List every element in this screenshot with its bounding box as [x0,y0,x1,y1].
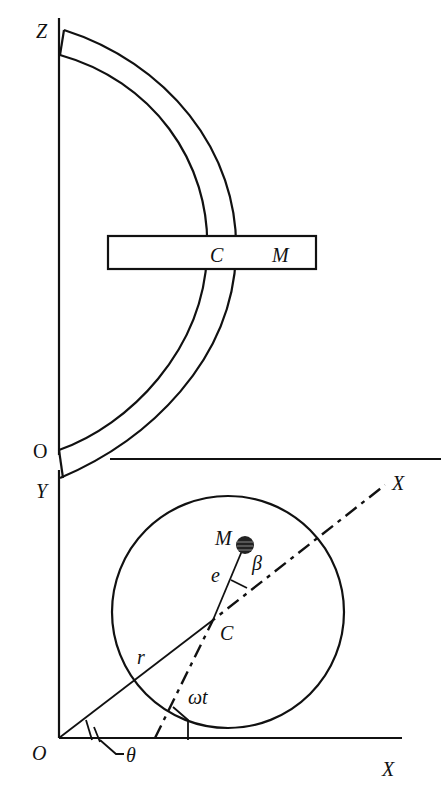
theta-label: θ [126,744,136,766]
mass-label: M [214,527,233,549]
radius-label: r [137,646,145,668]
disk-center-label: C [210,244,224,266]
radius-line [59,620,213,738]
beta-perpendicular [231,580,247,588]
omega-t-arc [173,707,188,740]
center-label: C [220,622,234,644]
shaft-top-cap [60,30,64,55]
y-axis-label: Y [36,480,49,502]
x-axis-label: X [381,758,395,780]
theta-tick-2 [94,727,100,742]
top-view: Z C M O [33,18,441,478]
top-origin-label: O [33,440,47,462]
rotor-diagram: Z C M O Y X O r e M [0,0,441,802]
z-axis-label: Z [36,20,48,42]
theta-leader [100,740,124,754]
rotating-axis-label: X [391,472,405,494]
beta-label: β [251,552,262,575]
disk-mass-label: M [271,244,290,266]
omega-t-label: ωt [188,686,208,708]
eccentricity-label: e [211,564,220,586]
origin-label: O [32,742,46,764]
bottom-view: Y X O r e M β C X ωt θ [32,470,405,780]
